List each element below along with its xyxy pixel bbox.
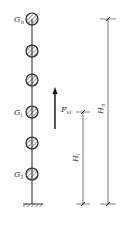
mass-n: [26, 13, 38, 25]
diagram-canvas: Gn Gi G1 Fvi Hi Hn: [0, 0, 129, 226]
mass-2: [26, 137, 38, 149]
label-h-i: Hi: [71, 153, 81, 163]
label-h-n: Hn: [96, 103, 106, 115]
label-g-i: Gi: [14, 108, 22, 118]
label-g-1: G1: [14, 170, 24, 180]
fixed-support-icon: [23, 204, 43, 207]
mass-1: [26, 168, 38, 180]
label-g-n: Gn: [14, 15, 24, 25]
mass-4: [26, 74, 38, 86]
label-f-vi: Fvi: [60, 105, 72, 115]
mass-5: [26, 45, 38, 57]
force-arrow-icon: [53, 87, 58, 129]
mass-i: [26, 106, 38, 118]
